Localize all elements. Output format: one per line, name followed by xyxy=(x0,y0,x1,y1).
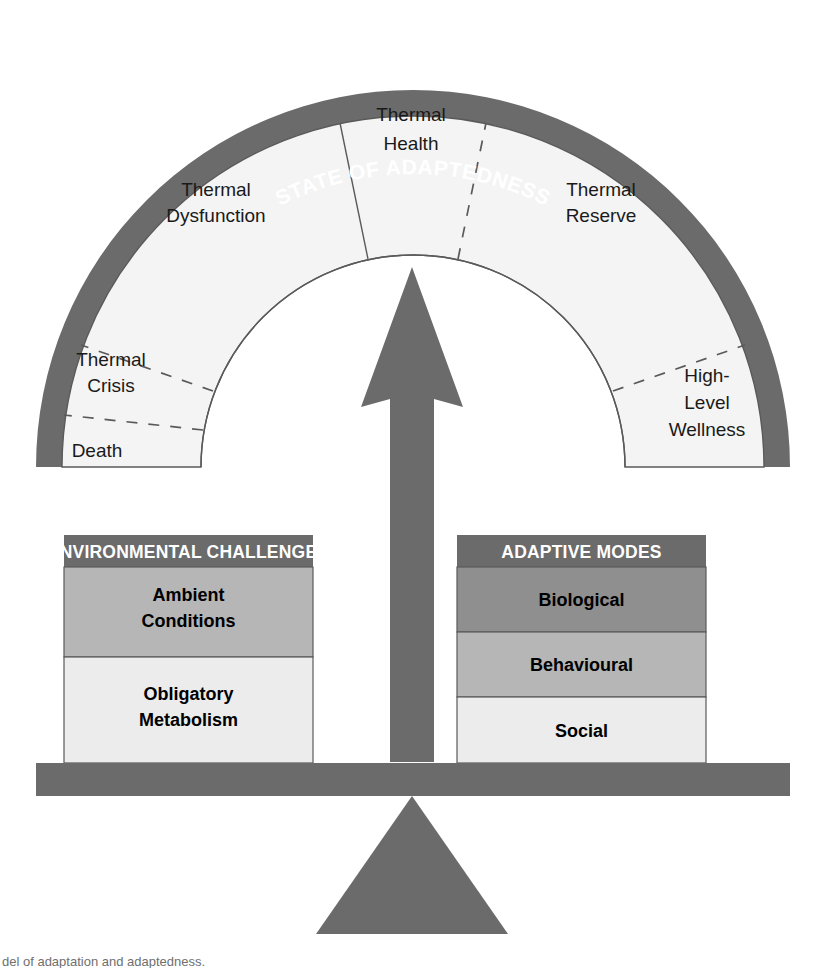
adaptive-modes-panel: ADAPTIVE MODES Biological Behavioural So… xyxy=(457,535,706,763)
tier-social-label: Social xyxy=(555,721,608,741)
gauge-sector-label-death: Death xyxy=(72,440,123,461)
upward-arrow-icon xyxy=(361,267,463,762)
svg-text:Dysfunction: Dysfunction xyxy=(166,205,265,226)
figure-caption: del of adaptation and adaptedness. xyxy=(2,954,205,968)
svg-text:Reserve: Reserve xyxy=(566,205,637,226)
svg-text:Thermal: Thermal xyxy=(566,179,636,200)
balance-beam xyxy=(36,763,790,796)
tier-ambient-conditions-label-line1: Ambient xyxy=(153,585,225,605)
adaptive-modes-header-label: ADAPTIVE MODES xyxy=(501,542,661,562)
tier-obligatory-metabolism-label-line1: Obligatory xyxy=(143,684,233,704)
tier-biological-label: Biological xyxy=(538,590,624,610)
environmental-challenges-panel: ENVIRONMENTAL CHALLENGES Ambient Conditi… xyxy=(48,535,329,763)
tier-ambient-conditions-label-line2: Conditions xyxy=(142,611,236,631)
environmental-challenges-header-label: ENVIRONMENTAL CHALLENGES xyxy=(48,542,329,562)
svg-text:Death: Death xyxy=(72,440,123,461)
svg-text:High-: High- xyxy=(684,365,729,386)
svg-text:Thermal: Thermal xyxy=(376,104,446,125)
svg-text:Level: Level xyxy=(684,392,729,413)
adaptedness-diagram: STATE OF ADAPTEDNESS Death Thermal Crisi… xyxy=(0,0,824,968)
tier-behavioural-label: Behavioural xyxy=(530,655,633,675)
diagram-canvas: STATE OF ADAPTEDNESS Death Thermal Crisi… xyxy=(0,0,824,968)
svg-text:Thermal: Thermal xyxy=(181,179,251,200)
svg-text:Wellness: Wellness xyxy=(669,419,746,440)
svg-text:Health: Health xyxy=(384,133,439,154)
svg-text:Crisis: Crisis xyxy=(87,375,135,396)
triangular-fulcrum xyxy=(316,796,508,934)
tier-obligatory-metabolism-label-line2: Metabolism xyxy=(139,710,238,730)
figure-caption-text: del of adaptation and adaptedness. xyxy=(2,954,205,968)
svg-text:Thermal: Thermal xyxy=(76,349,146,370)
